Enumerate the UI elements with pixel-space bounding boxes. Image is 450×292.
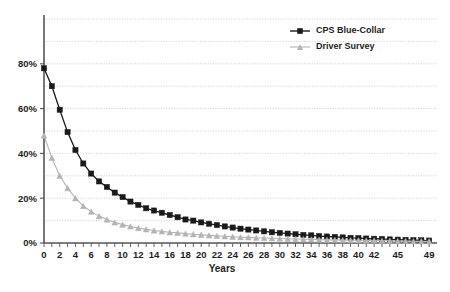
data-point-marker	[214, 222, 219, 227]
data-point-marker	[199, 220, 204, 225]
data-point-marker	[128, 199, 133, 204]
data-point-marker	[96, 213, 102, 218]
x-axis-title: Years	[209, 263, 236, 274]
x-axis-tick-label: 16	[164, 249, 175, 260]
x-axis-tick-label: 32	[290, 249, 301, 260]
gridlines-group	[44, 19, 437, 221]
x-axis-tick-label: 18	[180, 249, 191, 260]
data-point-marker	[191, 218, 196, 223]
chart-container: 0%20%40%60%80% 0246810121416182022242628…	[0, 0, 450, 292]
data-point-marker	[261, 229, 266, 234]
x-axis-tick-label: 49	[424, 249, 435, 260]
x-axis-tick-label: 22	[212, 249, 223, 260]
legend: CPS Blue-CollarDriver Survey	[290, 25, 386, 51]
data-point-marker	[222, 224, 227, 229]
data-point-marker	[112, 190, 117, 195]
data-point-marker	[65, 185, 71, 190]
data-point-marker	[104, 217, 110, 222]
y-axis-tick-label: 60%	[18, 103, 38, 114]
plot-area: 0%20%40%60%80% 0246810121416182022242628…	[0, 0, 450, 292]
y-axis-tick-label: 80%	[18, 58, 38, 69]
data-point-marker	[246, 227, 251, 232]
series-line	[44, 135, 429, 241]
series-line	[44, 68, 429, 240]
chart-svg: 0%20%40%60%80% 0246810121416182022242628…	[0, 0, 450, 292]
legend-label: Driver Survey	[316, 41, 375, 51]
data-point-marker	[104, 184, 109, 189]
x-axis-tick-label: 42	[369, 249, 380, 260]
data-point-marker	[230, 225, 235, 230]
series-group	[41, 66, 432, 244]
data-point-marker	[41, 133, 47, 138]
data-point-marker	[206, 221, 211, 226]
data-point-marker	[120, 194, 125, 199]
y-axis-tick-label: 40%	[18, 148, 38, 159]
data-point-marker	[81, 161, 86, 166]
x-axis-tick-label: 40	[353, 249, 364, 260]
data-point-marker	[73, 147, 78, 152]
data-point-marker	[112, 220, 118, 225]
legend-label: CPS Blue-Collar	[316, 25, 386, 35]
y-axis-tick-label: 20%	[18, 193, 38, 204]
legend-marker	[297, 28, 303, 34]
data-point-marker	[183, 217, 188, 222]
data-point-marker	[175, 215, 180, 220]
data-point-marker	[159, 210, 164, 215]
data-point-marker	[96, 179, 101, 184]
x-axis-tick-label: 28	[259, 249, 270, 260]
legend-item: CPS Blue-Collar	[290, 25, 386, 35]
x-axis-tick-label: 45	[392, 249, 403, 260]
x-axis-tick-label: 38	[337, 249, 348, 260]
x-axis-tick-label: 20	[196, 249, 207, 260]
data-point-marker	[151, 208, 156, 213]
x-axis-tick-label: 36	[322, 249, 333, 260]
data-point-marker	[167, 212, 172, 217]
data-point-marker	[277, 230, 282, 235]
x-axis-tick-label: 4	[73, 249, 79, 260]
y-axis-tick-labels: 0%20%40%60%80%	[18, 58, 38, 248]
x-axis-tick-label: 6	[89, 249, 94, 260]
x-axis-tick-label: 12	[133, 249, 144, 260]
data-point-marker	[49, 155, 55, 160]
x-axis-tick-label: 30	[275, 249, 286, 260]
x-axis-tick-label: 34	[306, 249, 317, 260]
data-point-marker	[144, 206, 149, 211]
y-axis-tick-label: 0%	[23, 237, 37, 248]
x-axis-tick-label: 14	[149, 249, 160, 260]
data-point-marker	[136, 202, 141, 207]
data-point-marker	[269, 230, 274, 235]
x-axis-tick-label: 26	[243, 249, 254, 260]
x-axis-tick-label: 10	[117, 249, 128, 260]
data-point-marker	[89, 171, 94, 176]
data-point-marker	[238, 226, 243, 231]
x-axis-tick-label: 8	[104, 249, 109, 260]
data-point-marker	[49, 84, 54, 89]
axis-lines-group	[44, 15, 437, 243]
series-driver-survey	[41, 133, 432, 244]
x-axis-tick-labels: 0246810121416182022242628303234363840424…	[41, 249, 434, 260]
data-point-marker	[57, 107, 62, 112]
legend-item: Driver Survey	[290, 41, 375, 51]
data-point-marker	[65, 130, 70, 135]
x-axis-tick-label: 24	[227, 249, 238, 260]
data-point-marker	[41, 66, 46, 71]
x-axis-tick-label: 0	[41, 249, 46, 260]
data-point-marker	[254, 228, 259, 233]
x-axis-tick-label: 2	[57, 249, 62, 260]
data-point-marker	[285, 231, 290, 236]
